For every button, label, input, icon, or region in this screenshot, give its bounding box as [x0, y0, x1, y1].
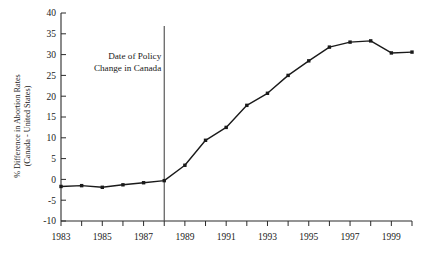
- y-tick-label: 15: [47, 112, 57, 122]
- data-point-marker: [266, 92, 269, 95]
- data-point-marker: [390, 51, 393, 54]
- y-tick-label: 20: [47, 92, 57, 102]
- y-tick-label: 25: [47, 71, 57, 81]
- y-axis-title: % Difference in Abortion Rates (Canada -…: [13, 74, 32, 178]
- x-axis-tick-labels: 198319851987198919911993199519971999: [52, 232, 402, 242]
- data-point-marker: [369, 39, 372, 42]
- data-point-marker: [121, 183, 124, 186]
- data-point-marker: [204, 139, 207, 142]
- data-point-marker: [224, 126, 227, 129]
- data-point-marker: [307, 59, 310, 62]
- y-tick-label: 5: [51, 154, 56, 164]
- y-tick-label: 0: [51, 175, 56, 185]
- data-point-marker: [163, 179, 166, 182]
- series-markers-difference: [59, 39, 413, 189]
- policy-change-annotation-line2: Change in Canada: [94, 63, 161, 73]
- y-axis-title-line2: (Canada - United States): [23, 85, 32, 166]
- y-tick-label: 10: [47, 133, 57, 143]
- y-tick-label: -10: [43, 216, 56, 226]
- x-tick-label: 1997: [341, 232, 360, 242]
- data-point-marker: [245, 104, 248, 107]
- y-tick-label: 40: [47, 8, 57, 18]
- y-tick-label: 35: [47, 29, 57, 39]
- line-chart: % Difference in Abortion Rates (Canada -…: [0, 0, 425, 254]
- data-point-marker: [142, 181, 145, 184]
- data-point-marker: [101, 186, 104, 189]
- data-point-marker: [348, 40, 351, 43]
- y-tick-label: 30: [47, 50, 57, 60]
- x-tick-label: 1995: [299, 232, 318, 242]
- data-point-marker: [410, 50, 413, 53]
- x-tick-label: 1987: [134, 232, 153, 242]
- x-tick-label: 1991: [217, 232, 236, 242]
- data-point-marker: [286, 74, 289, 77]
- x-tick-label: 1983: [52, 232, 71, 242]
- data-point-marker: [328, 45, 331, 48]
- policy-change-annotation: Date of Policy Change in Canada: [94, 51, 162, 73]
- y-axis-tick-labels: -10-50510152025303540: [43, 8, 56, 226]
- x-tick-label: 1985: [93, 232, 112, 242]
- data-point-marker: [80, 184, 83, 187]
- policy-change-annotation-line1: Date of Policy: [108, 51, 161, 61]
- y-tick-label: -5: [48, 196, 56, 206]
- data-point-marker: [59, 185, 62, 188]
- x-tick-label: 1999: [382, 232, 401, 242]
- x-axis-tick-marks: [61, 221, 412, 226]
- y-axis-title-line1: % Difference in Abortion Rates: [13, 74, 22, 178]
- data-point-marker: [183, 164, 186, 167]
- chart-figure: % Difference in Abortion Rates (Canada -…: [0, 0, 425, 254]
- x-tick-label: 1989: [175, 232, 194, 242]
- y-axis-tick-marks: [61, 13, 66, 221]
- x-tick-label: 1993: [258, 232, 277, 242]
